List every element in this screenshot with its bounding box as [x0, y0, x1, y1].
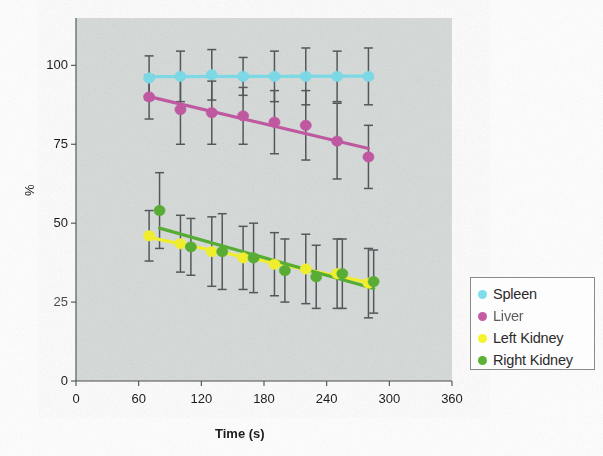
x-tick-label: 0	[56, 391, 96, 406]
y-tick-label: 25	[30, 294, 68, 309]
legend-swatch-left-kidney	[478, 334, 487, 343]
legend-swatch-spleen	[478, 290, 487, 299]
legend-item-right-kidney[interactable]: Right Kidney	[478, 349, 588, 371]
plot-canvas	[0, 0, 603, 456]
x-tick-label: 300	[369, 391, 409, 406]
legend-label-liver: Liver	[493, 308, 523, 324]
legend-item-spleen[interactable]: Spleen	[478, 283, 588, 305]
legend-item-left-kidney[interactable]: Left Kidney	[478, 327, 588, 349]
legend-label-spleen: Spleen	[493, 286, 537, 302]
chart-figure: % Time (s) 0255075100 060120180240300360…	[0, 0, 603, 456]
y-tick-label: 0	[30, 373, 68, 388]
x-tick-label: 360	[432, 391, 472, 406]
y-tick-label: 75	[30, 136, 68, 151]
legend-swatch-liver	[478, 312, 487, 321]
legend-label-right-kidney: Right Kidney	[493, 352, 573, 368]
y-tick-label: 50	[30, 215, 68, 230]
legend-label-left-kidney: Left Kidney	[493, 330, 563, 346]
legend-item-liver[interactable]: Liver	[478, 305, 588, 327]
x-axis-title: Time (s)	[215, 426, 265, 441]
x-tick-label: 60	[119, 391, 159, 406]
chart-legend: Spleen Liver Left Kidney Right Kidney	[470, 277, 595, 370]
x-tick-label: 120	[181, 391, 221, 406]
x-tick-label: 240	[307, 391, 347, 406]
y-tick-label: 100	[30, 57, 68, 72]
x-tick-label: 180	[244, 391, 284, 406]
y-axis-title: %	[22, 184, 37, 196]
legend-swatch-right-kidney	[478, 356, 487, 365]
